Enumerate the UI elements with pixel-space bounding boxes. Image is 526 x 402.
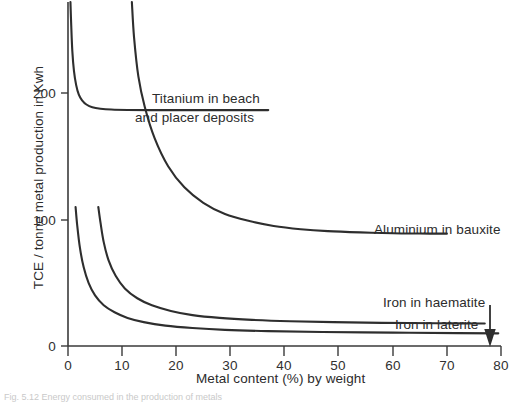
- x-tick-label-80: 80: [493, 358, 508, 373]
- x-tick-label-10: 10: [114, 358, 129, 373]
- x-tick-label-70: 70: [439, 358, 454, 373]
- x-tick-label-60: 60: [385, 358, 400, 373]
- series-label-aluminium: Aluminium in bauxite: [374, 222, 501, 237]
- x-tick-marks: [68, 346, 501, 356]
- series-label-iron-laterite: Iron in laterite: [395, 317, 478, 332]
- series-label-titanium-line1: Titanium in beach: [152, 91, 260, 106]
- y-tick-label-0: 0: [24, 339, 56, 354]
- chart-figure: 0 100 200 0 10 20 30 40 50 60 70 80 TCE …: [0, 0, 526, 402]
- chart-plot-area: [0, 0, 526, 402]
- haematite-pointer-arrow: [486, 305, 495, 344]
- series-label-titanium-line2: and placer deposits: [135, 110, 254, 125]
- series-label-iron-haematite: Iron in haematite: [383, 295, 485, 310]
- x-tick-label-20: 20: [168, 358, 183, 373]
- figure-caption: Fig. 5.12 Energy consumed in the product…: [4, 392, 304, 402]
- x-tick-label-0: 0: [64, 358, 72, 373]
- data-curves: [70, 2, 498, 333]
- y-tick-marks: [61, 93, 68, 346]
- y-axis-title: TCE / tonne metal production in Kwh: [31, 43, 46, 313]
- x-axis-title: Metal content (%) by weight: [196, 371, 365, 386]
